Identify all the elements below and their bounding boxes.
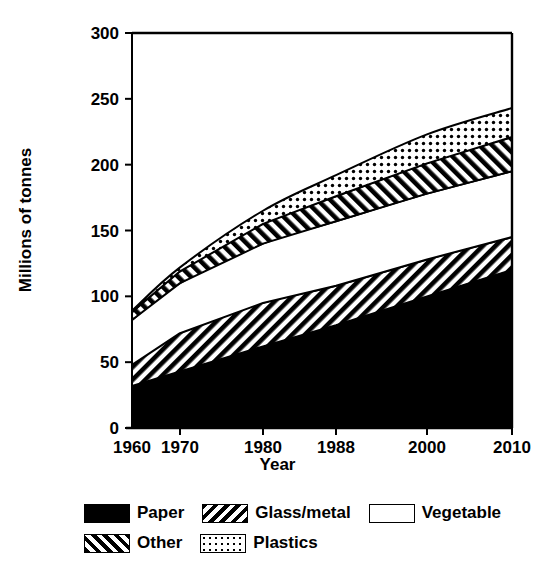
legend-swatch-vegetable [369, 504, 415, 523]
legend-item-plastics[interactable]: Plastics [200, 533, 317, 553]
legend-label-glass-metal: Glass/metal [255, 503, 350, 523]
legend-item-vegetable[interactable]: Vegetable [369, 503, 501, 523]
legend-item-glass-metal[interactable]: Glass/metal [202, 503, 350, 523]
legend-swatch-paper [84, 504, 130, 523]
x-axis-label: Year [0, 455, 555, 475]
y-axis-ticks-group: 050100150200250300 [91, 24, 132, 438]
plot-area: 050100150200250300 196019701980198820002… [0, 0, 555, 470]
legend-label-plastics: Plastics [253, 533, 317, 553]
y-tick-label: 50 [100, 353, 119, 372]
y-tick-label: 300 [91, 24, 119, 43]
legend-swatch-plastics [200, 534, 246, 553]
legend-label-other: Other [137, 533, 182, 553]
legend-label-vegetable: Vegetable [422, 503, 501, 523]
legend-label-paper: Paper [137, 503, 184, 523]
x-axis-ticks-group: 196019701980198820002010 [113, 428, 531, 457]
legend-row: PaperGlass/metalVegetable [84, 498, 514, 528]
stacked-area-chart: Millions of tonnes 050100150200250300 19… [0, 0, 555, 584]
y-tick-label: 150 [91, 222, 119, 241]
area-series-group [132, 108, 512, 428]
legend-item-other[interactable]: Other [84, 533, 182, 553]
legend-row: OtherPlastics [84, 528, 514, 558]
legend: PaperGlass/metalVegetableOtherPlastics [84, 498, 514, 558]
y-tick-label: 200 [91, 156, 119, 175]
legend-swatch-glass-metal [202, 504, 248, 523]
legend-item-paper[interactable]: Paper [84, 503, 184, 523]
y-tick-label: 100 [91, 287, 119, 306]
y-tick-label: 250 [91, 90, 119, 109]
legend-swatch-other [84, 534, 130, 553]
y-tick-label: 0 [110, 419, 119, 438]
